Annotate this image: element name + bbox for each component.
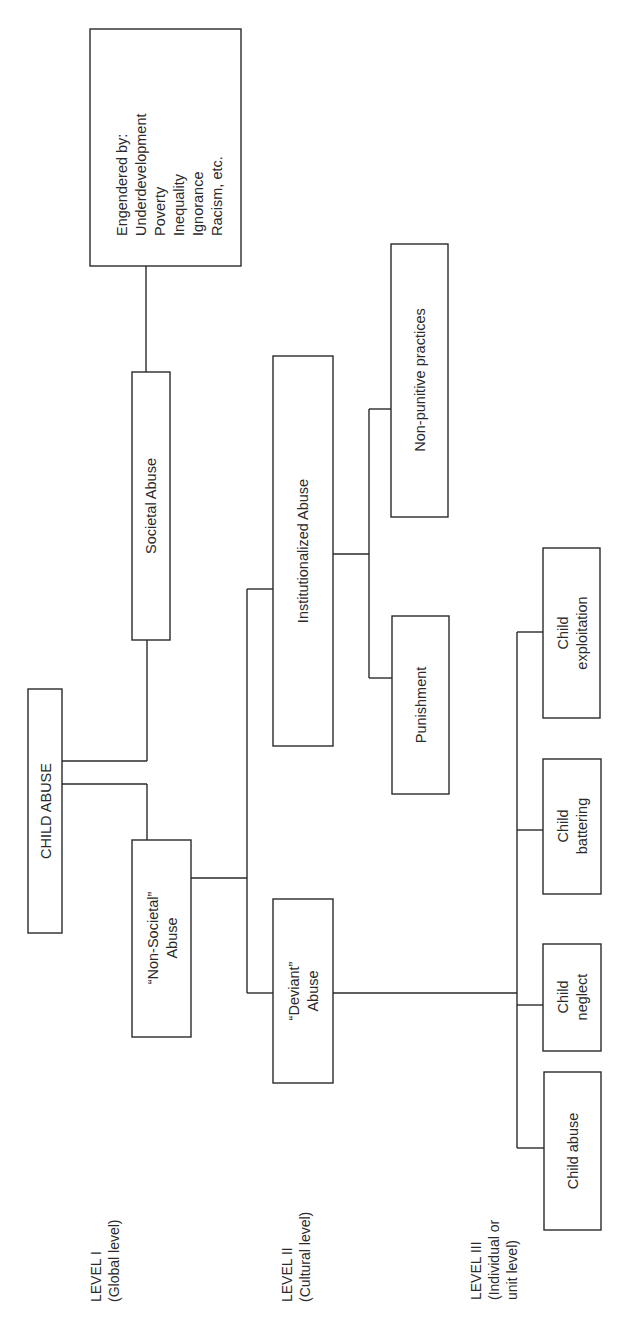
node-child-abuse-root: CHILD ABUSE [28,689,62,933]
node-deviant-abuse: “Deviant” Abuse [273,899,333,1083]
punishment-label: Punishment [413,667,429,744]
institutionalized-label: Institutionalized Abuse [295,479,311,623]
child-neglect-line-1: Child [555,980,571,1013]
node-non-societal-abuse: “Non-Societal” Abuse [132,840,191,1037]
node-child-abuse-leaf: Child abuse [544,1072,601,1230]
level-3-title: LEVEL III [468,1241,484,1300]
node-institutionalized-abuse: Institutionalized Abuse [273,356,333,746]
engendered-line-2: Underdevelopment [133,113,149,236]
node-punishment: Punishment [392,616,449,794]
node-child-exploitation: Child exploitation [543,548,600,718]
node-societal-abuse: Societal Abuse [132,372,170,640]
non-punitive-label: Non-punitive practices [412,308,428,451]
child-battering-line-2: battering [574,798,590,854]
child-exploitation-line-2: exploitation [574,596,590,669]
child-abuse-leaf-label: Child abuse [565,1113,581,1190]
child-abuse-diagram: CHILD ABUSE Societal Abuse Engendered by… [0,0,623,1333]
engendered-line-6: Racism, etc. [209,156,225,236]
level-1-subtitle: (Global level) [106,1220,122,1302]
deviant-line-2: Abuse [305,970,321,1011]
engendered-line-4: Inequality [171,173,187,236]
engendered-line-5: Ignorance [190,172,206,237]
node-child-battering: Child battering [543,759,601,894]
root-label: CHILD ABUSE [38,763,54,859]
level-label-2: LEVEL II (Cultural level) [279,1212,313,1302]
node-child-neglect: Child neglect [543,944,601,1051]
engendered-line-1: Engendered by: [114,134,130,236]
level-2-title: LEVEL II [279,1247,295,1302]
node-non-punitive-practices: Non-punitive practices [391,244,448,517]
node-engendered-by: Engendered by: Underdevelopment Poverty … [90,29,241,266]
child-neglect-line-2: neglect [574,974,590,1021]
non-societal-line-1: “Non-Societal” [145,891,161,984]
level-3-subtitle-2: unit level) [504,1240,520,1300]
level-1-title: LEVEL I [88,1251,104,1302]
societal-abuse-label: Societal Abuse [143,458,159,554]
level-label-3: LEVEL III (Individual or unit level) [468,1220,520,1300]
level-2-subtitle: (Cultural level) [297,1212,313,1302]
child-battering-line-1: Child [555,809,571,842]
level-3-subtitle: (Individual or [486,1220,502,1300]
level-label-1: LEVEL I (Global level) [88,1220,122,1302]
child-exploitation-line-1: Child [555,616,571,649]
non-societal-line-2: Abuse [164,917,180,958]
deviant-line-1: “Deviant” [286,961,302,1020]
engendered-line-3: Poverty [152,186,168,236]
